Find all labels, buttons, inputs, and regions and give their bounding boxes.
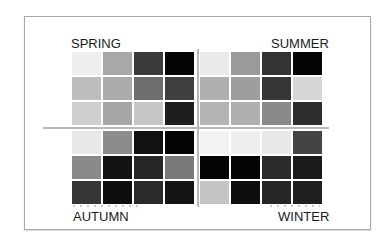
autumn-swatch — [165, 156, 194, 179]
winter-swatch — [231, 181, 260, 204]
winter-swatch — [200, 131, 229, 154]
spring-swatch — [103, 102, 132, 125]
summer-swatch — [200, 52, 229, 75]
spring-swatch — [165, 102, 194, 125]
winter-swatch — [293, 156, 322, 179]
autumn-swatch — [134, 131, 163, 154]
winter-swatch — [231, 156, 260, 179]
spring-swatch — [134, 102, 163, 125]
autumn-swatch-grid — [72, 131, 194, 204]
winter-swatch-grid — [200, 131, 322, 204]
summer-swatch — [262, 102, 291, 125]
winter-swatch — [262, 156, 291, 179]
summer-swatch — [293, 52, 322, 75]
spring-swatch — [72, 52, 101, 75]
winter-tick-marks — [270, 205, 320, 207]
autumn-label: AUTUMN — [73, 210, 129, 224]
winter-swatch — [262, 131, 291, 154]
spring-swatch — [165, 77, 194, 100]
summer-swatch — [231, 102, 260, 125]
autumn-swatch — [165, 181, 194, 204]
summer-swatch-grid — [200, 52, 322, 125]
winter-swatch — [200, 156, 229, 179]
autumn-swatch — [72, 131, 101, 154]
summer-swatch — [200, 77, 229, 100]
summer-swatch — [293, 77, 322, 100]
spring-swatch — [103, 52, 132, 75]
summer-swatch — [262, 52, 291, 75]
autumn-swatch — [72, 181, 101, 204]
summer-swatch — [293, 102, 322, 125]
spring-swatch — [72, 102, 101, 125]
autumn-tick-marks — [73, 205, 143, 207]
spring-swatch-grid — [72, 52, 194, 125]
autumn-swatch — [103, 181, 132, 204]
autumn-swatch — [134, 181, 163, 204]
spring-swatch — [134, 52, 163, 75]
autumn-swatch — [134, 156, 163, 179]
spring-swatch — [134, 77, 163, 100]
autumn-swatch — [103, 156, 132, 179]
spring-swatch — [103, 77, 132, 100]
autumn-swatch — [165, 131, 194, 154]
autumn-swatch — [72, 156, 101, 179]
winter-swatch — [200, 181, 229, 204]
summer-swatch — [200, 102, 229, 125]
seasonal-palette-card: SPRING SUMMER AUTUMN WINTER — [24, 16, 371, 230]
spring-swatch — [72, 77, 101, 100]
horizontal-divider — [43, 127, 329, 129]
summer-swatch — [262, 77, 291, 100]
summer-label: SUMMER — [271, 37, 329, 51]
winter-swatch — [293, 181, 322, 204]
winter-label: WINTER — [278, 210, 329, 224]
winter-swatch — [262, 181, 291, 204]
autumn-swatch — [103, 131, 132, 154]
winter-swatch — [293, 131, 322, 154]
summer-swatch — [231, 52, 260, 75]
winter-swatch — [231, 131, 260, 154]
spring-label: SPRING — [71, 37, 121, 51]
summer-swatch — [231, 77, 260, 100]
spring-swatch — [165, 52, 194, 75]
